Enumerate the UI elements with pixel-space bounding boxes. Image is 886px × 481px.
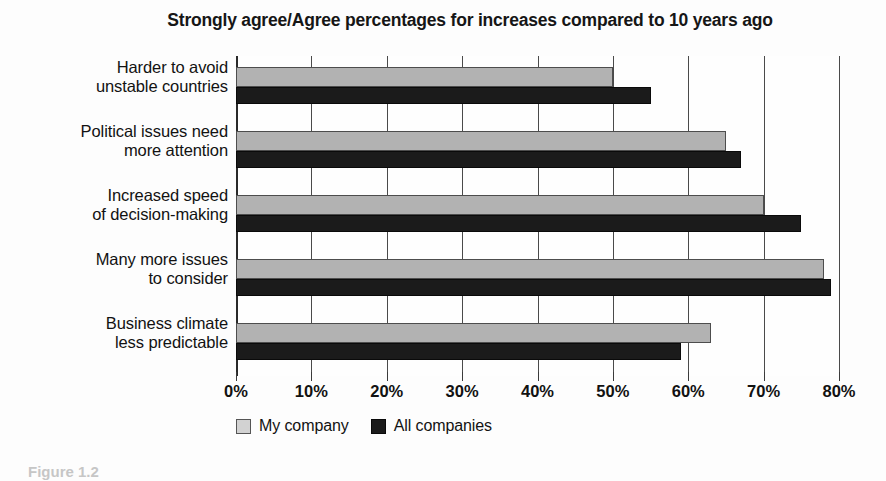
- tick-label-50: 50%: [596, 382, 629, 401]
- bar-all-companies[interactable]: [236, 215, 801, 232]
- category-label: Many more issuesto consider: [8, 250, 228, 288]
- category-label-line: more attention: [8, 141, 228, 160]
- category-label-line: unstable countries: [8, 77, 228, 96]
- tick-mark: [462, 372, 463, 381]
- legend-swatch-icon: [236, 419, 251, 434]
- tick-mark: [236, 372, 237, 381]
- bar-all-companies[interactable]: [236, 343, 681, 360]
- tick-mark: [387, 372, 388, 381]
- gridline-80: [839, 56, 840, 376]
- category-label: Increased speedof decision-making: [8, 186, 228, 224]
- tick-mark: [538, 372, 539, 381]
- bar-group: [236, 195, 839, 232]
- category-label-line: Many more issues: [8, 250, 228, 269]
- bar-all-companies[interactable]: [236, 279, 831, 296]
- bar-my-company[interactable]: [236, 195, 764, 215]
- chart-figure: Strongly agree/Agree percentages for inc…: [0, 0, 886, 481]
- legend-swatch-icon: [371, 419, 386, 434]
- category-axis-labels: Harder to avoidunstable countriesPolitic…: [0, 56, 228, 376]
- tick-label-70: 70%: [747, 382, 780, 401]
- tick-label-10: 10%: [295, 382, 328, 401]
- bar-group: [236, 131, 839, 168]
- category-label-line: Political issues need: [8, 122, 228, 141]
- chart-legend: My companyAll companies: [236, 414, 492, 438]
- tick-label-60: 60%: [672, 382, 705, 401]
- category-label: Political issues needmore attention: [8, 122, 228, 160]
- category-label: Business climateless predictable: [8, 314, 228, 352]
- tick-mark: [839, 372, 840, 381]
- tick-mark: [764, 372, 765, 381]
- legend-label: All companies: [394, 417, 492, 435]
- tick-label-80: 80%: [822, 382, 855, 401]
- category-label-line: Harder to avoid: [8, 58, 228, 77]
- legend-item[interactable]: My company: [236, 417, 349, 435]
- category-label: Harder to avoidunstable countries: [8, 58, 228, 96]
- category-label-line: of decision-making: [8, 205, 228, 224]
- bar-my-company[interactable]: [236, 67, 613, 87]
- tick-mark: [311, 372, 312, 381]
- figure-caption: Figure 1.2: [28, 463, 99, 481]
- category-label-line: Business climate: [8, 314, 228, 333]
- plot-area: [236, 56, 839, 376]
- bar-all-companies[interactable]: [236, 87, 651, 104]
- tick-label-0: 0%: [224, 382, 248, 401]
- category-label-line: Increased speed: [8, 186, 228, 205]
- bar-my-company[interactable]: [236, 131, 726, 151]
- category-label-line: to consider: [8, 269, 228, 288]
- bar-all-companies[interactable]: [236, 151, 741, 168]
- bar-my-company[interactable]: [236, 323, 711, 343]
- tick-mark: [688, 372, 689, 381]
- tick-label-30: 30%: [446, 382, 479, 401]
- tick-label-20: 20%: [370, 382, 403, 401]
- bar-group: [236, 67, 839, 104]
- bar-group: [236, 259, 839, 296]
- bar-my-company[interactable]: [236, 259, 824, 279]
- bar-group: [236, 323, 839, 360]
- value-axis-ticks: 0%10%20%30%40%50%60%70%80%: [236, 382, 839, 406]
- legend-item[interactable]: All companies: [371, 417, 492, 435]
- chart-title: Strongly agree/Agree percentages for inc…: [120, 10, 820, 31]
- legend-label: My company: [259, 417, 349, 435]
- tick-mark: [613, 372, 614, 381]
- category-label-line: less predictable: [8, 333, 228, 352]
- tick-label-40: 40%: [521, 382, 554, 401]
